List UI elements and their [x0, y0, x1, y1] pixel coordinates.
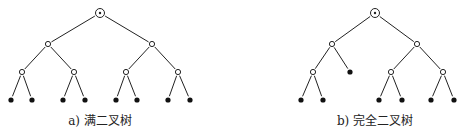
internal-node-icon	[329, 41, 334, 46]
leaf-node-icon	[134, 97, 139, 102]
leaf-node-icon	[399, 97, 404, 102]
tree-edge	[315, 47, 330, 68]
leaf-node-icon	[428, 97, 433, 102]
leaf-node-icon	[347, 69, 352, 74]
tree-edge	[12, 76, 20, 97]
root-center-dot	[374, 12, 376, 14]
tree-edge	[169, 76, 176, 96]
tree-a	[8, 9, 192, 103]
caption-full-binary-tree: a) 满二叉树	[68, 111, 132, 128]
caption-complete-binary-tree: b) 完全二叉树	[337, 111, 413, 128]
tree-edge	[444, 76, 452, 97]
tree-edge	[51, 16, 94, 42]
leaf-node-icon	[60, 97, 65, 102]
tree-edge	[392, 76, 400, 97]
tree-edge	[180, 76, 189, 97]
tree-edge	[129, 47, 150, 69]
root-center-dot	[99, 12, 101, 14]
tree-edge	[25, 47, 46, 69]
tree-edge	[380, 17, 414, 42]
leaf-node-icon	[298, 97, 303, 102]
tree-edge	[334, 47, 348, 68]
tree-edge	[105, 16, 148, 42]
internal-node-icon	[388, 69, 393, 74]
tree-edge	[381, 76, 390, 97]
leaf-node-icon	[451, 97, 456, 102]
internal-node-icon	[414, 41, 419, 46]
tree-edge	[51, 47, 72, 69]
tree-edge	[117, 76, 124, 96]
internal-node-icon	[19, 69, 24, 74]
internal-node-icon	[149, 41, 154, 46]
internal-node-icon	[310, 69, 315, 74]
leaf-node-icon	[8, 97, 13, 102]
tree-edge	[420, 47, 441, 69]
tree-b	[298, 9, 456, 103]
leaf-node-icon	[82, 97, 87, 102]
internal-node-icon	[123, 69, 128, 74]
tree-edge	[155, 47, 176, 69]
internal-node-icon	[175, 69, 180, 74]
tree-edge	[433, 76, 442, 97]
leaf-node-icon	[376, 97, 381, 102]
leaf-node-icon	[113, 97, 118, 102]
leaf-node-icon	[320, 97, 325, 102]
tree-edge	[303, 76, 312, 97]
tree-edge	[23, 76, 30, 96]
leaf-node-icon	[165, 97, 170, 102]
leaf-node-icon	[29, 97, 34, 102]
leaf-node-icon	[187, 97, 192, 102]
internal-node-icon	[71, 69, 76, 74]
tree-edge	[75, 76, 83, 97]
tree-edge	[335, 17, 370, 42]
tree-edge	[394, 47, 415, 69]
tree-edge	[314, 76, 321, 96]
internal-node-icon	[440, 69, 445, 74]
internal-node-icon	[45, 41, 50, 46]
tree-edge	[64, 76, 72, 97]
tree-edge	[127, 76, 135, 97]
